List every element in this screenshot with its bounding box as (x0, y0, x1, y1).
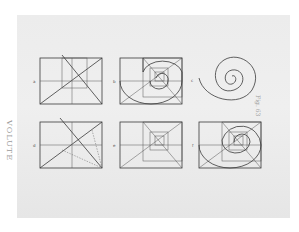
fig-top-right: c (191, 57, 256, 100)
fig-bottom-middle: e (113, 122, 182, 168)
fig-top-middle: b (113, 58, 182, 104)
fig-top-left: a (33, 55, 102, 104)
fig-bottom-left: d (33, 118, 102, 168)
fig-label: c (191, 78, 193, 83)
plate-diagrams: a b c d e (0, 0, 299, 232)
fig-label: f (192, 143, 194, 148)
fig-label: e (113, 143, 116, 148)
fig-bottom-right: f (192, 122, 261, 168)
fig-label: b (113, 79, 116, 84)
fig-label: a (33, 79, 36, 84)
fig-label: d (33, 143, 36, 148)
